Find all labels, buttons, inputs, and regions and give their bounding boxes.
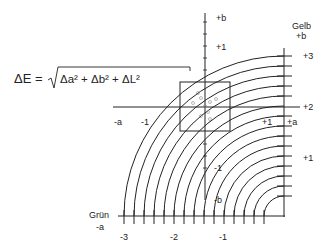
label-plus-a-mid: +a [287,117,297,127]
bottom-ticks [124,210,264,224]
label-minus-1-lower: -1 [214,163,222,173]
label-plus-1-right: +1 [303,153,313,163]
axis-labels: +b +1 Gelb +b +3 +2 +1 -a -1 +1 +a -1 -b… [89,13,313,242]
formula: ΔE = Δa² + Δb² + ΔL² [14,67,190,88]
label-minus-1-left: -1 [141,117,149,127]
label-gelb: Gelb [292,21,311,31]
label-plus-1-top: +1 [216,42,226,52]
outer-axes [118,48,285,217]
label-plus-2-right: +2 [303,102,313,112]
concentric-arcs [124,56,284,216]
label-plus-3-right: +3 [303,51,313,61]
label-minus-a-left: -a [114,117,122,127]
label-gruen: Grün [89,210,109,220]
label-minus-1-bottom: -1 [219,232,227,242]
label-plus-1-mid: +1 [262,117,272,127]
label-gelb-plus-b: +b [296,31,306,41]
color-difference-diagram: ΔE = Δa² + Δb² + ΔL² +b +1 Gelb +b +3 +2… [0,0,330,251]
label-minus-b-lower: -b [214,195,222,205]
label-plus-b-top: +b [216,13,226,23]
formula-radicand: Δa² + Δb² + ΔL² [60,73,140,85]
label-minus-2-bottom: -2 [170,232,178,242]
formula-lhs: ΔE = [14,71,43,86]
label-minus-3-bottom: -3 [120,232,128,242]
label-gruen-minus-a: -a [96,222,104,232]
